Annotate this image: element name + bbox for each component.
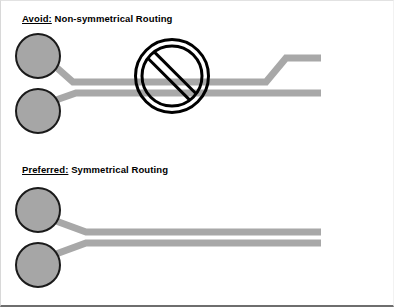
pad-preferred-bottom xyxy=(16,243,60,287)
diagram-avoid xyxy=(16,34,321,133)
routing-guideline-figure: Avoid: Non-symmetrical Routing Preferred… xyxy=(0,0,394,307)
pad-avoid-bottom xyxy=(16,89,60,133)
pad-avoid-top xyxy=(16,34,60,78)
trace-upper-symmetrical xyxy=(56,221,321,232)
trace-lower-symmetrical xyxy=(56,243,321,254)
trace-upper-nonsymmetrical xyxy=(56,58,321,82)
pad-preferred-top xyxy=(16,188,60,232)
routing-diagram-canvas xyxy=(1,1,394,307)
prohibition-icon xyxy=(136,40,209,113)
diagram-preferred xyxy=(16,188,321,287)
